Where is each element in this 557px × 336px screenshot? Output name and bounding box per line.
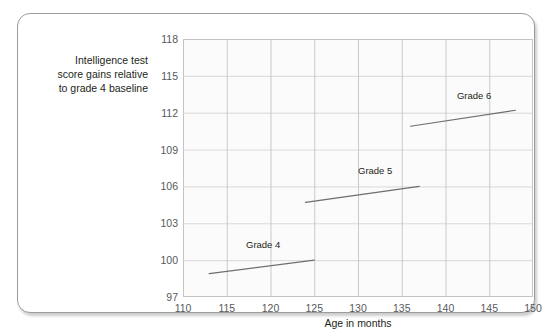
x-tick-label: 110 [163, 302, 203, 314]
y-tick-label: 106 [148, 180, 178, 192]
series-line-grade-4 [209, 260, 314, 274]
y-tick-label: 112 [148, 107, 178, 119]
x-tick-label: 135 [382, 302, 422, 314]
y-tick-label: 115 [148, 70, 178, 82]
plot-area-wrapper: Grade 4Grade 5Grade 6 [183, 39, 533, 297]
x-axis-title: Age in months [183, 317, 533, 329]
y-tick-label: 103 [148, 217, 178, 229]
series-line-grade-5 [306, 186, 420, 202]
x-tick-label: 140 [426, 302, 466, 314]
series-label-grade-6: Grade 6 [457, 90, 491, 101]
y-tick-label: 100 [148, 254, 178, 266]
series-label-grade-5: Grade 5 [358, 165, 392, 176]
x-tick-label: 150 [513, 302, 553, 314]
page-root: Intelligence test score gains relative t… [0, 0, 557, 336]
x-tick-label: 115 [207, 302, 247, 314]
y-axis-title: Intelligence test score gains relative t… [30, 53, 148, 95]
x-tick-label: 130 [338, 302, 378, 314]
series-line-grade-6 [411, 110, 516, 126]
y-axis-title-line-3: to grade 4 baseline [30, 81, 148, 95]
y-axis-title-line-2: score gains relative [30, 67, 148, 81]
y-axis-title-line-1: Intelligence test [30, 53, 148, 67]
y-tick-label: 118 [148, 33, 178, 45]
x-tick-label: 120 [251, 302, 291, 314]
x-tick-label: 145 [469, 302, 509, 314]
x-tick-label: 125 [294, 302, 334, 314]
figure-card: Intelligence test score gains relative t… [17, 13, 535, 313]
x-axis-tick-labels: 110115120125130135140145150 [183, 302, 533, 318]
y-tick-label: 109 [148, 144, 178, 156]
series-label-grade-4: Grade 4 [246, 239, 280, 250]
y-axis-tick-labels: 97100103106109112115118 [146, 39, 178, 297]
